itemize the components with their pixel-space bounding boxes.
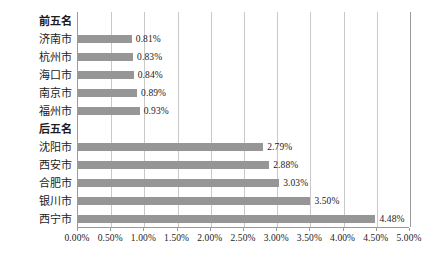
- category-label: 南京市: [39, 84, 72, 102]
- x-axis-tick-mark: [343, 228, 344, 231]
- bar-value-label: 4.48%: [379, 214, 404, 224]
- category-label: 杭州市: [39, 48, 72, 66]
- bar-row: 0.84%: [78, 66, 409, 84]
- gridline: [410, 12, 411, 227]
- x-axis-tick-mark: [243, 228, 244, 231]
- bar-row: [78, 12, 409, 30]
- bar-row: 2.79%: [78, 138, 409, 156]
- bar-value-label: 3.50%: [314, 196, 339, 206]
- bar-row: 4.48%: [78, 210, 409, 228]
- bar: [78, 35, 132, 43]
- x-axis-tick-label: 3.00%: [264, 230, 289, 246]
- category-group-header: 前五名: [39, 12, 72, 30]
- x-axis-tick-label: 5.00%: [396, 230, 421, 246]
- x-axis-tick-mark: [110, 228, 111, 231]
- bar-row: 2.88%: [78, 156, 409, 174]
- bar: [78, 143, 263, 151]
- x-axis-tick-mark: [409, 228, 410, 231]
- bar: [78, 53, 133, 61]
- category-label: 福州市: [39, 102, 72, 120]
- category-group-header: 后五名: [39, 120, 72, 138]
- x-axis-tick-label: 2.00%: [197, 230, 222, 246]
- bar-row: [78, 120, 409, 138]
- category-axis-labels: 前五名济南市杭州市海口市南京市福州市后五名沈阳市西安市合肥市银川市西宁市: [0, 12, 77, 228]
- category-label: 沈阳市: [39, 138, 72, 156]
- bar: [78, 197, 310, 205]
- bar-chart: 前五名济南市杭州市海口市南京市福州市后五名沈阳市西安市合肥市银川市西宁市 0.8…: [0, 0, 441, 255]
- bar-rows: 0.81%0.83%0.84%0.89%0.93%2.79%2.88%3.03%…: [78, 12, 409, 227]
- x-axis-tick-mark: [309, 228, 310, 231]
- bar-value-label: 2.79%: [267, 142, 292, 152]
- x-axis-tick-mark: [177, 228, 178, 231]
- x-axis-tick-label: 1.00%: [131, 230, 156, 246]
- x-axis-tick-label: 0.00%: [64, 230, 89, 246]
- bar-row: 0.93%: [78, 102, 409, 120]
- category-label: 西宁市: [39, 210, 72, 228]
- bar-value-label: 0.93%: [144, 106, 169, 116]
- x-axis-tick-mark: [77, 228, 78, 231]
- x-axis-tick-mark: [210, 228, 211, 231]
- bar: [78, 179, 279, 187]
- x-axis-tick-labels: 0.00%0.50%1.00%1.50%2.00%2.50%3.00%3.50%…: [0, 230, 441, 246]
- bar: [78, 161, 269, 169]
- category-label: 西安市: [39, 156, 72, 174]
- bar: [78, 107, 140, 115]
- bar-row: 0.81%: [78, 30, 409, 48]
- bar-row: 0.89%: [78, 84, 409, 102]
- plot-area: 0.81%0.83%0.84%0.89%0.93%2.79%2.88%3.03%…: [77, 12, 409, 228]
- bar-value-label: 0.81%: [136, 34, 161, 44]
- x-axis-tick-label: 4.00%: [330, 230, 355, 246]
- x-axis-tick-mark: [143, 228, 144, 231]
- x-axis-tick-label: 3.50%: [297, 230, 322, 246]
- bar: [78, 215, 375, 223]
- bar: [78, 89, 137, 97]
- bar: [78, 71, 134, 79]
- x-axis-tick-label: 0.50%: [98, 230, 123, 246]
- bar-value-label: 0.83%: [137, 52, 162, 62]
- x-axis-tick-mark: [276, 228, 277, 231]
- x-axis-tick-label: 1.50%: [164, 230, 189, 246]
- bar-value-label: 0.84%: [138, 70, 163, 80]
- bar-value-label: 3.03%: [283, 178, 308, 188]
- category-label: 合肥市: [39, 174, 72, 192]
- bar-value-label: 0.89%: [141, 88, 166, 98]
- category-label: 济南市: [39, 30, 72, 48]
- bar-value-label: 2.88%: [273, 160, 298, 170]
- category-label: 海口市: [39, 66, 72, 84]
- x-axis-tick-label: 4.50%: [363, 230, 388, 246]
- bar-row: 0.83%: [78, 48, 409, 66]
- bar-row: 3.03%: [78, 174, 409, 192]
- x-axis-tick-mark: [376, 228, 377, 231]
- x-axis-tick-label: 2.50%: [230, 230, 255, 246]
- category-label: 银川市: [39, 192, 72, 210]
- bar-row: 3.50%: [78, 192, 409, 210]
